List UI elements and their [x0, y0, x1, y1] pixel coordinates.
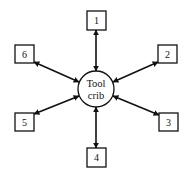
node-label-3: 3 — [166, 117, 171, 128]
node-label-6: 6 — [22, 49, 27, 60]
node-label-1: 1 — [94, 15, 99, 26]
node-5: 5 — [15, 113, 34, 131]
edge-hub-6 — [34, 62, 79, 82]
node-1: 1 — [87, 11, 106, 30]
node-label-5: 5 — [22, 117, 27, 128]
node-4: 4 — [87, 148, 106, 167]
edge-hub-3 — [113, 96, 159, 115]
hub-label-line2: crib — [88, 90, 104, 101]
node-label-4: 4 — [94, 152, 99, 163]
node-2: 2 — [158, 45, 177, 63]
node-3: 3 — [159, 113, 178, 131]
node-label-2: 2 — [165, 49, 170, 60]
hub-node: Tool crib — [78, 71, 114, 107]
node-6: 6 — [15, 45, 34, 63]
hub-circle — [78, 71, 114, 107]
edge-hub-5 — [34, 96, 79, 114]
tool-crib-diagram: Tool crib 1 2 3 4 5 6 — [0, 0, 190, 178]
hub-label-line1: Tool — [86, 78, 105, 89]
edge-hub-2 — [113, 62, 158, 82]
